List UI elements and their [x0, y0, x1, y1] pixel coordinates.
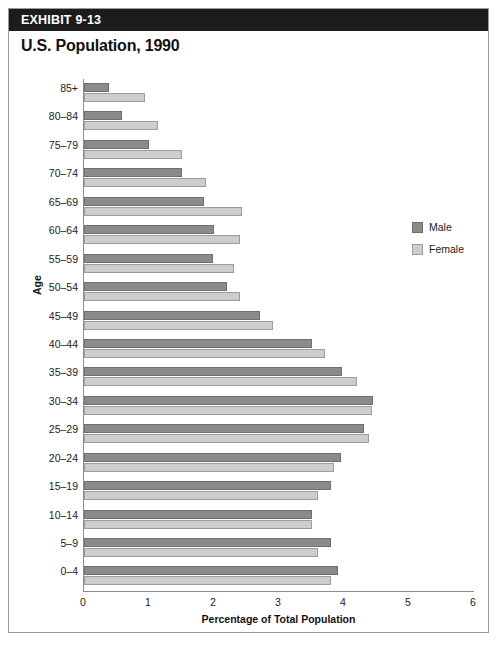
y-axis-tick-label: 20–24 — [49, 452, 78, 464]
bar-male — [84, 538, 331, 547]
legend-item-male: Male — [412, 221, 464, 233]
exhibit-number-label: EXHIBIT 9-13 — [21, 13, 101, 27]
bar-female — [84, 576, 331, 585]
y-axis-tick-label: 10–14 — [49, 509, 78, 521]
bar-female — [84, 463, 334, 472]
bar-female — [84, 491, 318, 500]
x-axis-tick-label: 4 — [340, 596, 346, 608]
bar-row: 0–4 — [84, 562, 474, 590]
bar-male — [84, 566, 338, 575]
bar-row: 40–44 — [84, 335, 474, 363]
bar-female — [84, 434, 369, 443]
y-axis-tick-label: 50–54 — [49, 281, 78, 293]
x-axis-tick-label: 3 — [275, 596, 281, 608]
bar-row: 75–79 — [84, 136, 474, 164]
bar-male — [84, 424, 364, 433]
plot-area: 85+80–8475–7970–7465–6960–6455–5950–5445… — [83, 79, 474, 591]
bar-male — [84, 197, 204, 206]
x-axis-tick-label: 1 — [145, 596, 151, 608]
bar-row: 30–34 — [84, 392, 474, 420]
x-axis-tick-label: 6 — [470, 596, 476, 608]
bar-rows: 85+80–8475–7970–7465–6960–6455–5950–5445… — [84, 79, 474, 591]
y-axis-tick-label: 70–74 — [49, 167, 78, 179]
bar-male — [84, 168, 182, 177]
y-axis-tick-label: 15–19 — [49, 480, 78, 492]
bar-female — [84, 377, 357, 386]
bar-row: 80–84 — [84, 107, 474, 135]
bar-row: 25–29 — [84, 420, 474, 448]
x-axis-tick-label: 2 — [210, 596, 216, 608]
y-axis-tick-label: 45–49 — [49, 310, 78, 322]
y-axis-tick-label: 85+ — [60, 82, 78, 94]
bar-female — [84, 150, 182, 159]
bar-row: 50–54 — [84, 278, 474, 306]
bar-female — [84, 349, 325, 358]
bar-male — [84, 140, 149, 149]
bar-female — [84, 321, 273, 330]
y-axis-tick-label: 80–84 — [49, 110, 78, 122]
bar-male — [84, 83, 109, 92]
bar-female — [84, 520, 312, 529]
bar-row: 10–14 — [84, 506, 474, 534]
bar-male — [84, 339, 312, 348]
bar-female — [84, 264, 234, 273]
exhibit-figure: EXHIBIT 9-13 U.S. Population, 1990 Age 8… — [8, 8, 489, 633]
bar-female — [84, 406, 372, 415]
y-axis-tick-label: 55–59 — [49, 253, 78, 265]
x-axis-tick-label: 0 — [80, 596, 86, 608]
y-axis-tick-label: 0–4 — [60, 565, 78, 577]
x-axis-tick-label: 5 — [405, 596, 411, 608]
bar-male — [84, 481, 331, 490]
bar-row: 5–9 — [84, 534, 474, 562]
y-axis-tick-label: 5–9 — [60, 537, 78, 549]
bar-male — [84, 311, 260, 320]
bar-row: 70–74 — [84, 164, 474, 192]
chart-legend: Male Female — [412, 221, 464, 265]
bar-female — [84, 207, 242, 216]
x-axis-ticks: 0123456 — [83, 591, 474, 611]
bar-female — [84, 292, 240, 301]
bar-male — [84, 282, 227, 291]
x-axis-title: Percentage of Total Population — [83, 613, 474, 625]
bar-male — [84, 225, 214, 234]
bar-male — [84, 396, 373, 405]
exhibit-header-bar: EXHIBIT 9-13 — [9, 9, 488, 31]
y-axis-tick-label: 25–29 — [49, 423, 78, 435]
legend-item-female: Female — [412, 243, 464, 255]
bar-row: 20–24 — [84, 449, 474, 477]
bar-male — [84, 453, 341, 462]
legend-label-male: Male — [429, 221, 452, 233]
bar-row: 15–19 — [84, 477, 474, 505]
bar-male — [84, 510, 312, 519]
bar-male — [84, 111, 122, 120]
bar-female — [84, 93, 145, 102]
y-axis-tick-label: 35–39 — [49, 366, 78, 378]
bar-row: 35–39 — [84, 363, 474, 391]
legend-swatch-male-icon — [412, 222, 423, 233]
y-axis-tick-label: 60–64 — [49, 224, 78, 236]
bar-male — [84, 254, 213, 263]
bar-male — [84, 367, 342, 376]
bar-female — [84, 121, 158, 130]
chart-title: U.S. Population, 1990 — [21, 37, 180, 55]
bar-row: 65–69 — [84, 193, 474, 221]
y-axis-tick-label: 75–79 — [49, 139, 78, 151]
bar-female — [84, 178, 206, 187]
bar-row: 85+ — [84, 79, 474, 107]
legend-label-female: Female — [429, 243, 464, 255]
y-axis-tick-label: 65–69 — [49, 196, 78, 208]
bar-female — [84, 548, 318, 557]
y-axis-tick-label: 40–44 — [49, 338, 78, 350]
y-axis-tick-label: 30–34 — [49, 395, 78, 407]
bar-row: 45–49 — [84, 307, 474, 335]
y-axis-title: Age — [31, 275, 43, 295]
legend-swatch-female-icon — [412, 244, 423, 255]
bar-female — [84, 235, 240, 244]
